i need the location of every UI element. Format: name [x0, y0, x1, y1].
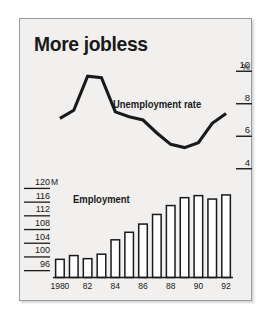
- left-axis-tick-label: 112: [20, 205, 50, 214]
- x-axis-tick-label: 82: [73, 282, 103, 291]
- right-axis-tick-label: 6: [228, 125, 250, 135]
- x-axis-tick-label: 88: [156, 282, 186, 291]
- right-axis-tick-label: 10: [228, 60, 250, 70]
- x-axis-tick-label: 1980: [45, 282, 75, 291]
- left-axis-tick-label: 116: [20, 192, 50, 201]
- chart-panel: [19, 18, 252, 301]
- right-axis-tick-label: 8: [228, 93, 250, 103]
- left-axis-tick-label: 104: [20, 233, 50, 242]
- right-axis-tick-label: 4: [228, 158, 250, 168]
- x-axis-tick-label: 90: [183, 282, 213, 291]
- left-axis-tick-label: 100: [20, 246, 50, 255]
- x-axis-tick-label: 84: [100, 282, 130, 291]
- employment-series-label: Employment: [73, 194, 130, 205]
- x-axis-tick-label: 86: [128, 282, 158, 291]
- left-axis-tick-label: 96: [20, 260, 50, 269]
- unemployment-series-label: Unemployment rate: [113, 99, 201, 110]
- chart-figure: More jobless Unemployment rate Employmen…: [0, 0, 270, 316]
- left-axis-tick-label: 120: [20, 178, 50, 187]
- left-axis-tick-label: 108: [20, 219, 50, 228]
- left-axis-unit-label: M: [51, 178, 58, 187]
- chart-title: More jobless: [34, 33, 148, 54]
- x-axis-tick-label: 92: [211, 282, 241, 291]
